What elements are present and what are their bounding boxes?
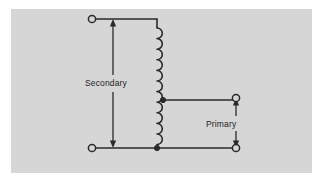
secondary-arrow-down-head — [110, 141, 116, 149]
secondary-arrow-up-head — [110, 19, 116, 27]
figure-root: Secondary Primary — [0, 0, 324, 192]
primary-top-terminal[interactable] — [232, 94, 239, 101]
coil-bottom-junction — [154, 145, 159, 150]
secondary-top-wire — [96, 19, 157, 28]
secondary-top-terminal[interactable] — [88, 15, 95, 22]
coil-tap-junction — [160, 97, 165, 102]
secondary-label: Secondary — [85, 79, 127, 88]
schematic-drawing — [0, 0, 324, 192]
winding-coil — [157, 28, 162, 148]
primary-label: Primary — [206, 120, 236, 129]
secondary-bottom-terminal[interactable] — [88, 144, 95, 151]
primary-bottom-terminal[interactable] — [232, 144, 239, 151]
